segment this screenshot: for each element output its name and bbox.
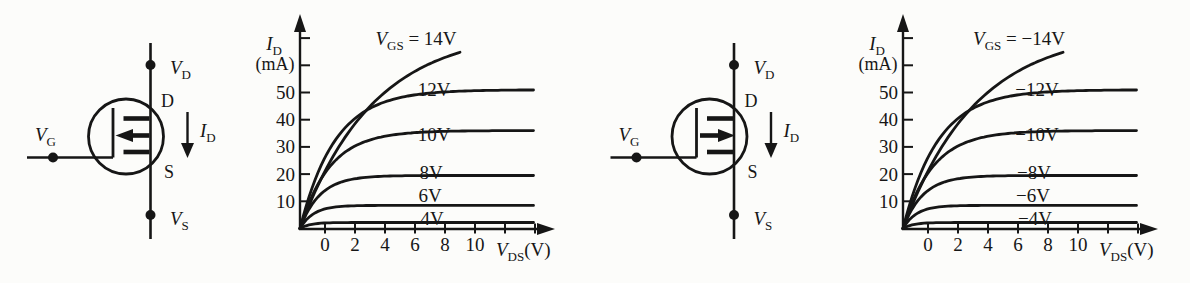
x-tick-label: 6 (410, 234, 420, 255)
x-tick-label: 0 (923, 234, 933, 255)
source-pin-label: S (164, 162, 174, 182)
y-tick-label: 40 (879, 109, 898, 130)
curve-label: 10V (418, 124, 451, 145)
x-tick-label: 8 (440, 234, 450, 255)
x-tick-label: 0 (320, 234, 330, 255)
y-tick-label: 30 (879, 136, 898, 157)
y-axis-unit: (mA) (859, 54, 898, 75)
x-tick-label: 2 (350, 234, 360, 255)
source-pin-label: S (748, 162, 758, 182)
y-tick-label: 10 (276, 191, 295, 212)
y-tick-label: 30 (276, 136, 295, 157)
x-tick-label: 8 (1043, 234, 1053, 255)
source-terminal-dot (146, 210, 156, 220)
curve-label: −6V (1016, 185, 1050, 206)
y-tick-label: 50 (276, 82, 295, 103)
drain-terminal-dot (146, 60, 156, 70)
y-tick-label: 40 (276, 109, 295, 130)
y-tick-label: 20 (879, 164, 898, 185)
x-tick-label: 10 (1069, 234, 1088, 255)
curve-label: −10V (1015, 124, 1059, 145)
x-tick-label: 4 (380, 234, 390, 255)
y-tick-label: 10 (879, 191, 898, 212)
x-axis-title: VDS(V) (496, 239, 551, 264)
curve-label: 6V (418, 185, 442, 206)
y-tick-label: 50 (879, 82, 898, 103)
gate-terminal-dot (48, 153, 58, 163)
x-tick-label: 2 (953, 234, 963, 255)
source-terminal-dot (729, 210, 739, 220)
curve-label: −4V (1018, 208, 1052, 229)
y-axis-unit: (mA) (256, 54, 295, 75)
x-tick-label: 4 (983, 234, 993, 255)
figure-canvas: VDDIDSVSVG10203040500246810ID(mA)VDS(V)V… (0, 0, 1190, 283)
drain-pin-label: D (161, 91, 174, 111)
curve-label: 12V (418, 79, 451, 100)
x-tick-label: 6 (1013, 234, 1023, 255)
x-axis-title: VDS(V) (1099, 239, 1154, 264)
curve-label: 4V (420, 208, 444, 229)
gate-terminal-dot (632, 153, 642, 163)
drain-pin-label: D (745, 91, 758, 111)
curve-label: −12V (1015, 79, 1059, 100)
x-tick-label: 10 (466, 234, 485, 255)
curve-label: −8V (1017, 162, 1051, 183)
mosfet-characteristics-figure: VDDIDSVSVG10203040500246810ID(mA)VDS(V)V… (0, 0, 1190, 283)
curve-label: 8V (419, 162, 443, 183)
drain-terminal-dot (729, 60, 739, 70)
y-tick-label: 20 (276, 164, 295, 185)
